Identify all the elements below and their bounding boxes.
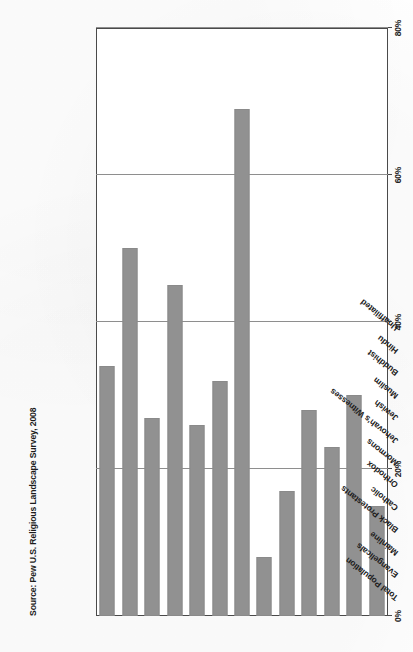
bar-row xyxy=(253,28,275,616)
bar-row xyxy=(343,28,365,616)
bar xyxy=(212,381,227,616)
bar-chart: 0%20%40%60%80% Total PopulationEvangelic… xyxy=(96,28,388,616)
bar-row xyxy=(276,28,298,616)
category-label: Jewish xyxy=(394,415,400,423)
rotated-page-canvas: Source: Pew U.S. Religious Landscape Sur… xyxy=(0,0,413,652)
category-label: Unaffiliated xyxy=(394,325,400,333)
bar xyxy=(234,109,249,616)
category-label: Mormons xyxy=(394,460,400,468)
bar xyxy=(100,366,115,616)
bar xyxy=(324,447,339,616)
category-label: Evangelicals xyxy=(394,572,400,580)
bar-row xyxy=(186,28,208,616)
bar xyxy=(190,425,205,616)
bar xyxy=(279,491,294,616)
category-label: Orthodox xyxy=(394,483,400,491)
category-label: Buddhist xyxy=(394,370,400,378)
bar-row xyxy=(163,28,185,616)
category-label: Total Population xyxy=(394,595,400,603)
bar-row xyxy=(298,28,320,616)
bar-row xyxy=(208,28,230,616)
category-label: Jehovah's Witnesses xyxy=(394,438,400,446)
bar xyxy=(257,557,272,616)
bar xyxy=(167,285,182,616)
category-label: Hindu xyxy=(394,348,400,356)
category-label: Catholic xyxy=(394,505,400,513)
bar-row xyxy=(118,28,140,616)
category-label: Muslim xyxy=(394,393,400,401)
bar-row xyxy=(141,28,163,616)
bar xyxy=(145,418,160,616)
source-note: Source: Pew U.S. Religious Landscape Sur… xyxy=(28,408,38,616)
category-label-layer: Total PopulationEvangelicalsMainlineBlac… xyxy=(388,28,413,616)
category-label: Black Protestants xyxy=(394,527,400,535)
bar xyxy=(122,249,137,617)
bar-row xyxy=(321,28,343,616)
category-label: Mainline xyxy=(394,550,400,558)
scanned-page: Source: Pew U.S. Religious Landscape Sur… xyxy=(0,0,413,652)
bar-row xyxy=(96,28,118,616)
bar-row xyxy=(231,28,253,616)
bar xyxy=(302,410,317,616)
